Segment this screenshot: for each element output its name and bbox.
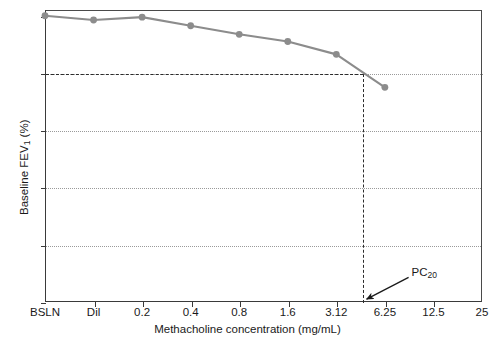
y-tick-mark-40 <box>41 188 46 189</box>
y-tick-mark-20 <box>41 246 46 247</box>
x-tick-label-4: 0.8 <box>231 306 247 318</box>
pc20-text-subscript: 20 <box>428 270 437 280</box>
x-tick-label-5: 1.6 <box>280 306 296 318</box>
gridline-y-80-continuation <box>363 74 483 75</box>
x-tick-label-0: BSLN <box>30 306 60 318</box>
y-tick-mark-60 <box>41 131 46 132</box>
pc20-text-main: PC <box>412 266 428 278</box>
gridline-y-40 <box>46 188 481 189</box>
y-tick-mark-100 <box>41 17 46 18</box>
y-axis-title-unit: (%) <box>18 119 30 140</box>
x-tick-label-8: 12.5 <box>422 306 444 318</box>
y-axis-title: Baseline FEV1 (%) <box>18 119 30 215</box>
x-tick-label-9: 25 <box>476 306 489 318</box>
plot-area <box>45 10 482 302</box>
y-axis-title-main: Baseline FEV <box>18 145 30 215</box>
x-tick-label-3: 0.4 <box>183 306 199 318</box>
y-tick-mark-0 <box>41 303 46 304</box>
reference-line-80-dashed <box>46 74 363 75</box>
x-tick-label-7: 6.25 <box>374 306 396 318</box>
x-tick-label-1: Dil <box>87 306 100 318</box>
y-axis-title-subscript: 1 <box>22 141 32 146</box>
gridline-y-20 <box>46 246 481 247</box>
pc20-annotation-label: PC20 <box>412 266 437 278</box>
x-tick-label-6: 3.12 <box>325 306 347 318</box>
gridline-y-60 <box>46 131 481 132</box>
chart-root: Baseline FEV1 (%) 020406080100 BSLNDil0.… <box>0 0 495 341</box>
x-axis-title: Methacholine concentration (mg/mL) <box>0 323 495 335</box>
reference-line-pc20-vertical <box>363 74 364 303</box>
x-tick-label-2: 0.2 <box>134 306 150 318</box>
